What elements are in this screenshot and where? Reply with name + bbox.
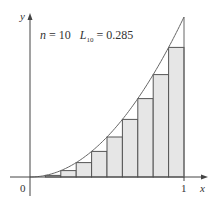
L-value: = 0.285 xyxy=(93,28,133,42)
riemann-rectangle xyxy=(169,47,184,177)
riemann-rectangle xyxy=(92,151,107,177)
riemann-rectangles xyxy=(45,47,184,177)
riemann-rectangle xyxy=(61,171,76,177)
riemann-rectangle xyxy=(138,99,153,177)
riemann-rectangle xyxy=(107,137,122,177)
origin-label: 0 xyxy=(20,182,26,194)
riemann-rectangle xyxy=(153,75,168,177)
y-axis-arrow-icon xyxy=(28,13,33,20)
riemann-rectangle xyxy=(122,119,137,177)
x-tick-one-label: 1 xyxy=(181,182,187,194)
n-value: = 10 xyxy=(46,28,71,42)
sum-annotation: n = 10 L10 = 0.285 xyxy=(40,28,133,44)
x-axis-label: x xyxy=(199,182,205,194)
x-axis-arrow-icon xyxy=(201,175,208,180)
y-axis-label: y xyxy=(19,10,25,22)
riemann-rectangle xyxy=(76,163,91,177)
